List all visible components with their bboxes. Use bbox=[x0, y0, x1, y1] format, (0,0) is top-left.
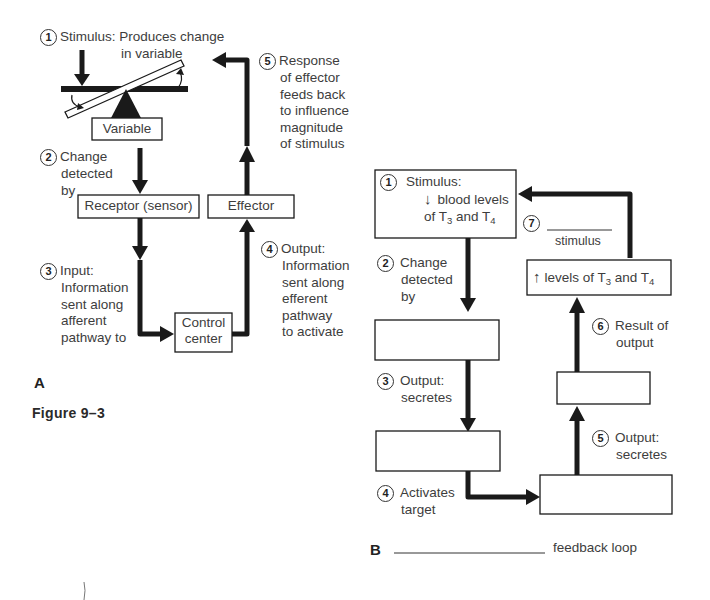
panel-b-label: B bbox=[370, 541, 381, 558]
step-number-badge: 2 bbox=[377, 255, 394, 272]
b-step6-label: 6Result of output bbox=[592, 318, 668, 352]
b-step2-label: 2Change detected by bbox=[377, 255, 453, 305]
step-number-badge: 3 bbox=[377, 373, 394, 390]
gland1-blank-box bbox=[376, 431, 500, 471]
b-step5-label: 5Output: secretes bbox=[592, 430, 667, 464]
step-number-badge: 4 bbox=[377, 485, 394, 502]
variable-box-label: Variable bbox=[92, 121, 162, 136]
receptor-blank-box bbox=[375, 320, 499, 360]
a-step4-label: 4Output: Information sent along efferent… bbox=[261, 241, 350, 341]
b-step4-label: 4Activates target bbox=[377, 485, 455, 519]
step-number-badge: 5 bbox=[259, 53, 276, 70]
result-blank-box bbox=[557, 372, 650, 404]
control-center-label: Control center bbox=[175, 315, 232, 347]
step-number-badge: 1 bbox=[40, 29, 57, 46]
panel-a-label: A bbox=[34, 374, 45, 391]
up-arrow-icon: ↑ bbox=[533, 268, 541, 285]
figure-caption: Figure 9–3 bbox=[32, 405, 105, 421]
step-number-badge: 4 bbox=[261, 241, 278, 258]
b-step3-label: 3Output: secretes bbox=[377, 373, 452, 407]
b-levels-box-text: ↑levels of T3 and T4 bbox=[533, 269, 654, 287]
b-step7-text: stimulus bbox=[555, 233, 601, 250]
step-number-badge: 2 bbox=[40, 149, 57, 166]
target-blank-box bbox=[540, 475, 672, 514]
a-step5-label: 5Response of effector feeds back to infl… bbox=[259, 53, 349, 153]
step-number-badge: 6 bbox=[592, 318, 609, 335]
a-step2-label: 2Change detected by bbox=[40, 149, 113, 199]
receptor-box-label: Receptor (sensor) bbox=[78, 198, 199, 213]
stray-mark bbox=[84, 582, 85, 600]
effector-box-label: Effector bbox=[208, 198, 294, 213]
step-number-badge: 7 bbox=[523, 215, 540, 232]
b-step7-label: 7 bbox=[523, 215, 543, 232]
a-step1-label: 1Stimulus: Produces change bbox=[40, 29, 224, 46]
a-step3-label: 3Input: Information sent along afferent … bbox=[40, 263, 129, 346]
feedback-loop-label: feedback loop bbox=[553, 540, 637, 557]
b-stimulus-box-text: 1Stimulus: ↓blood levels of T3 and T4 bbox=[380, 174, 512, 225]
down-arrow-icon: ↓ bbox=[380, 190, 432, 207]
step-number-badge: 1 bbox=[380, 174, 397, 191]
step-number-badge: 5 bbox=[592, 430, 609, 447]
step-number-badge: 3 bbox=[40, 263, 57, 280]
a-step1-label-line2: in variable bbox=[121, 46, 183, 63]
